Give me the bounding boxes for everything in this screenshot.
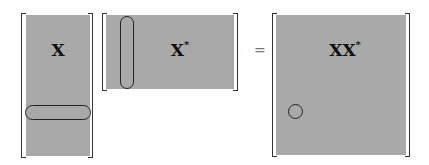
right-bracket: [88, 13, 93, 158]
matrix-x-star-label: X*: [150, 40, 210, 60]
entry-highlight: [288, 104, 303, 119]
right-bracket: [405, 13, 410, 157]
superscript: *: [184, 39, 189, 50]
matrix-x-fill: [26, 15, 90, 156]
label-text: X: [51, 40, 64, 60]
matrix-xx-star-label: XX*: [310, 40, 380, 60]
right-bracket: [233, 13, 238, 91]
matrix-x-label: X: [26, 40, 90, 60]
superscript: *: [356, 39, 361, 50]
column-highlight: [120, 16, 134, 89]
label-text: XX: [329, 40, 355, 60]
row-highlight: [25, 105, 91, 120]
equals-sign: =: [254, 42, 266, 58]
matrix-xx-star-fill: [276, 15, 406, 155]
label-text: X: [171, 40, 184, 60]
